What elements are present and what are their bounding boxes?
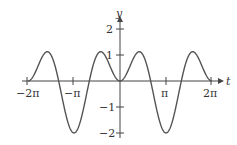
y-tick-label: −2 [99,127,115,140]
x-tick-label: −π [64,87,80,100]
y-tick-label: 2 [106,23,113,36]
x-tick-label: π [161,87,168,100]
y-axis-label: y [115,7,123,20]
y-tick-label: 1 [106,49,113,62]
x-tick-label: −2π [16,87,39,100]
chart-svg: y t −2π −π π 2π 2 1 −1 −2 [0,0,237,145]
x-axis-label: t [226,75,231,88]
x-axis-arrow-icon [218,78,224,84]
y-tick-label: −1 [99,101,115,114]
plot: y t −2π −π π 2π 2 1 −1 −2 [0,0,237,145]
x-tick-label: 2π [203,87,217,100]
